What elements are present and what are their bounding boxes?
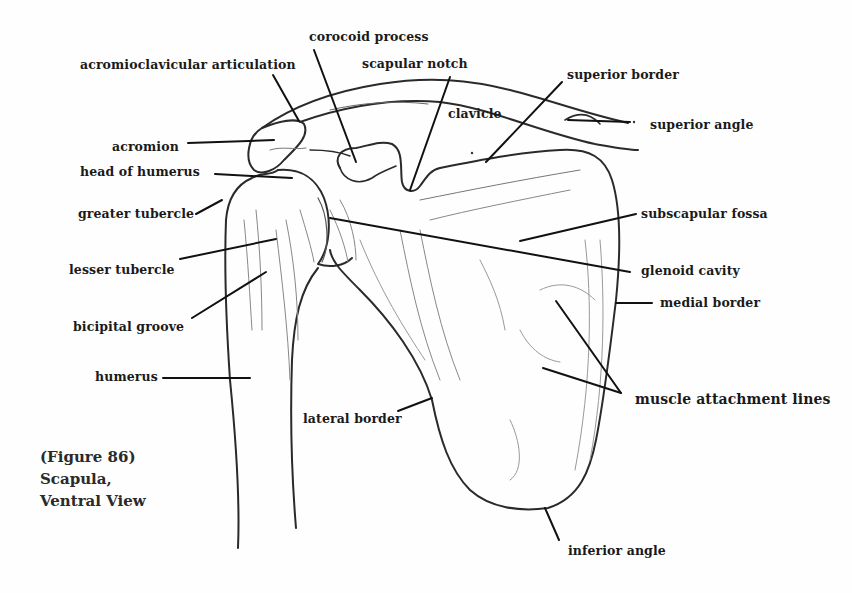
humerus-outline: [225, 170, 356, 548]
caption-view: Ventral View: [40, 490, 146, 512]
label-head-of-humerus: head of humerus: [80, 165, 200, 179]
label-acromioclavicular-articulation: acromioclavicular articulation: [80, 58, 296, 72]
coracoid-outline: [310, 143, 440, 191]
label-subscapular-fossa: subscapular fossa: [641, 207, 768, 221]
label-corocoid-process: corocoid process: [309, 30, 429, 44]
leader-line-muscle-attachment-lines-a: [556, 301, 621, 393]
label-glenoid-cavity: glenoid cavity: [641, 264, 740, 278]
leader-line-lateral-border: [398, 398, 432, 411]
label-medial-border: medial border: [660, 296, 760, 310]
label-lateral-border: lateral border: [303, 412, 402, 426]
label-greater-tubercle: greater tubercle: [78, 207, 194, 221]
label-acromion: acromion: [112, 140, 179, 154]
leader-line-acromion: [188, 140, 274, 143]
leader-line-bicipital-groove: [192, 272, 266, 318]
caption-title: Scapula,: [40, 468, 146, 490]
label-clavicle: clavicle: [448, 107, 502, 121]
label-lesser-tubercle: lesser tubercle: [69, 263, 175, 277]
label-scapular-notch: scapular notch: [362, 57, 468, 71]
label-superior-angle: superior angle: [650, 118, 753, 132]
label-muscle-attachment-lines: muscle attachment lines: [635, 392, 830, 406]
figure-caption: (Figure 86) Scapula, Ventral View: [40, 446, 146, 512]
label-superior-border: superior border: [567, 68, 679, 82]
acromion-outline: [248, 121, 306, 173]
anatomy-figure: corocoid processacromioclavicular articu…: [0, 0, 852, 593]
label-humerus: humerus: [95, 370, 158, 384]
leader-line-muscle-attachment-lines-b: [543, 368, 621, 393]
leader-line-greater-tubercle: [196, 200, 222, 214]
leader-line-inferior-angle: [545, 508, 559, 540]
label-bicipital-groove: bicipital groove: [73, 320, 184, 334]
label-inferior-angle: inferior angle: [568, 544, 666, 558]
leader-line-lesser-tubercle: [180, 239, 276, 259]
caption-figure-number: (Figure 86): [40, 446, 146, 468]
